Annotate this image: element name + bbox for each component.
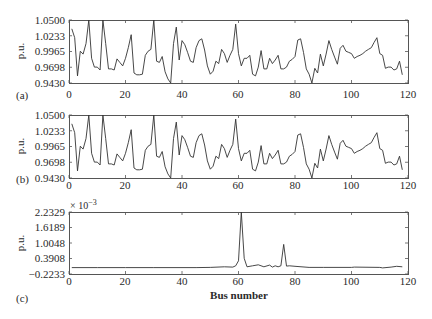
- data-line: [72, 212, 403, 268]
- plot-lines: [0, 0, 432, 319]
- data-line: [72, 115, 403, 178]
- data-line: [72, 20, 403, 83]
